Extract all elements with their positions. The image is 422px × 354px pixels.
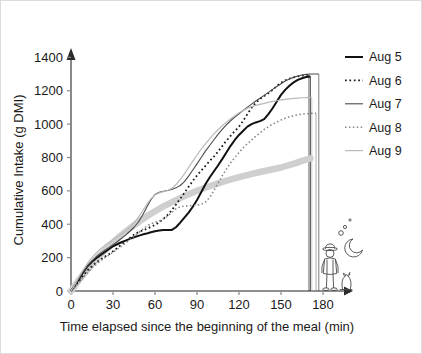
- figure-panel: 0200400600800100012001400030609012015018…: [0, 0, 422, 354]
- y-axis-title: Cumulative Intake (g DMI): [11, 95, 26, 246]
- y-tick-label: 1000: [34, 117, 63, 132]
- y-tick-label: 400: [41, 217, 63, 232]
- y-tick-label: 800: [41, 150, 63, 165]
- legend-label-aug-6: Aug 6: [369, 74, 402, 88]
- y-tick-label: 1200: [34, 83, 63, 98]
- y-axis-arrow: [67, 48, 76, 60]
- x-tick-label: 60: [148, 297, 162, 312]
- legend-label-aug-8: Aug 8: [369, 121, 402, 135]
- cumulative-intake-chart: 0200400600800100012001400030609012015018…: [1, 1, 422, 354]
- y-tick-label: 600: [41, 183, 63, 198]
- x-axis-arrow: [344, 287, 353, 296]
- series-line-aug-9-mean-trend: [71, 158, 310, 291]
- y-tick-label: 1400: [34, 50, 63, 65]
- chart-legend: Aug 5Aug 6Aug 7Aug 8Aug 9: [345, 50, 402, 158]
- legend-label-aug-9: Aug 9: [369, 144, 402, 158]
- y-tick-label: 0: [56, 284, 63, 299]
- x-tick-label: 0: [67, 297, 74, 312]
- x-tick-label: 180: [312, 297, 334, 312]
- series-line-aug-8: [71, 113, 316, 291]
- legend-label-aug-5: Aug 5: [369, 50, 402, 64]
- farmer-and-dog-sketch: [322, 219, 363, 291]
- y-tick-label: 200: [41, 250, 63, 265]
- x-tick-label: 150: [270, 297, 292, 312]
- x-axis-title: Time elapsed since the beginning of the …: [60, 319, 354, 334]
- x-tick-label: 30: [106, 297, 120, 312]
- legend-label-aug-7: Aug 7: [369, 97, 402, 111]
- x-tick-label: 120: [228, 297, 250, 312]
- series-line-aug-7: [71, 74, 319, 291]
- x-tick-label: 90: [190, 297, 204, 312]
